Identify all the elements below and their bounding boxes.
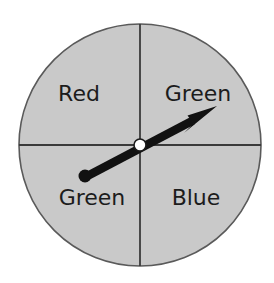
sector-label-lower-right: Blue: [172, 185, 221, 210]
sector-label-upper-right: Green: [165, 81, 232, 106]
sector-label-upper-left: Red: [58, 81, 100, 106]
sector-label-lower-left: Green: [59, 185, 126, 210]
spinner-figure: Red Green Green Blue: [0, 0, 274, 283]
spinner-graphic: Red Green Green Blue: [0, 0, 274, 283]
arrow-tail-dot: [79, 170, 92, 183]
spinner-hub[interactable]: [134, 139, 146, 151]
